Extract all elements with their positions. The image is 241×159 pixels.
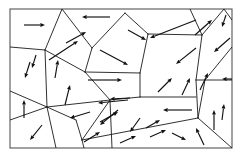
arrow-lower-mid-left-shaft: [115, 98, 130, 99]
diagram-frame: [10, 9, 232, 148]
grain-structure-svg: [0, 0, 241, 159]
grain-structure-figure: [0, 0, 241, 159]
